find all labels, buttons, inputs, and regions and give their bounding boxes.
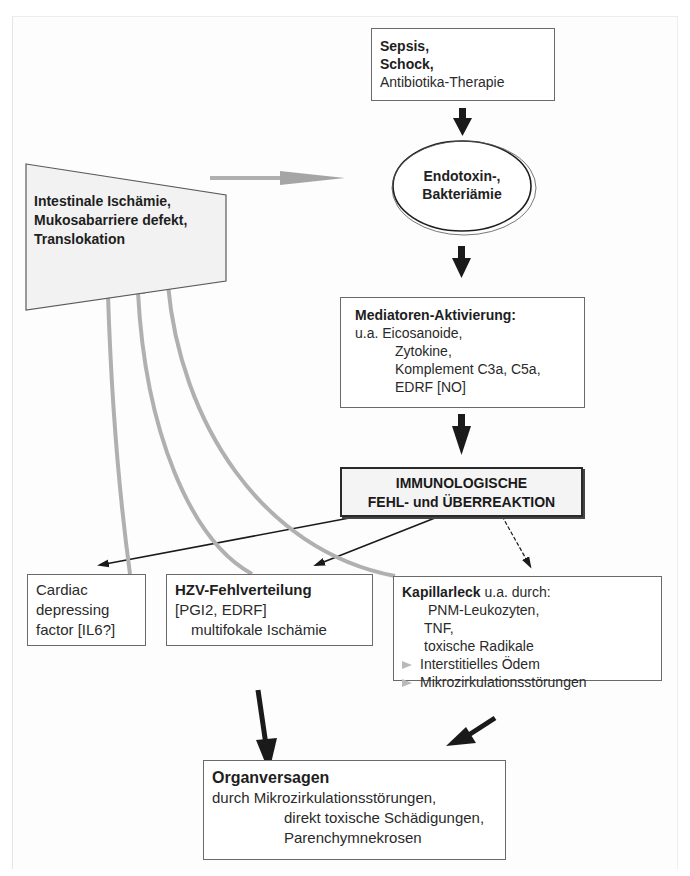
- kapillar-bullet-1-text: Interstitielles Ödem: [420, 656, 540, 672]
- intestinal-line-1: Intestinale Ischämie,: [34, 192, 234, 211]
- triangle-bullet-icon: [402, 679, 412, 687]
- cardiac-line-1: Cardiac: [36, 580, 145, 600]
- node-endotoxin: Endotoxin-, Bakteriämie: [402, 167, 522, 203]
- organ-line-3: Parenchymnekrosen: [212, 828, 505, 848]
- endotoxin-line-1: Endotoxin-,: [402, 167, 522, 185]
- kapillar-line-1: PNM-Leukozyten,: [402, 601, 661, 619]
- node-intestinal: Intestinale Ischämie, Mukosabarriere def…: [34, 192, 234, 249]
- arrow-immuno-to-kapillar: [502, 516, 530, 566]
- arrow-kapillar-to-organ: [446, 718, 495, 746]
- kapillar-line-3: toxische Radikale: [402, 637, 661, 655]
- sepsis-line-1: Sepsis,: [380, 37, 554, 55]
- arrow-endotoxin-to-mediatoren: [452, 246, 471, 278]
- intestinal-line-2: Mukosabarriere defekt,: [34, 211, 234, 230]
- endotoxin-line-2: Bakteriämie: [402, 185, 522, 203]
- kapillar-title-suffix: u.a. durch:: [481, 584, 551, 600]
- immuno-line-2: FEHL- und ÜBERREAKTION: [342, 493, 581, 512]
- node-hzv: HZV-Fehlverteilung [PGI2, EDRF] multifok…: [166, 574, 373, 646]
- arrow-intestinal-to-endotoxin: [210, 171, 345, 185]
- node-organ: Organversagen durch Mikrozirkulationsstö…: [203, 760, 506, 860]
- sepsis-line-2: Schock,: [380, 55, 554, 73]
- hzv-line-1: [PGI2, EDRF]: [175, 600, 372, 620]
- organ-line-2: direkt toxische Schädigungen,: [212, 808, 505, 828]
- intestinal-line-3: Translokation: [34, 230, 234, 249]
- cardiac-line-2: depressing: [36, 600, 145, 620]
- curve-cardiac-to-intestinal: [108, 295, 130, 574]
- organ-title: Organversagen: [212, 768, 505, 788]
- connector-layer: [0, 0, 690, 876]
- cardiac-line-3: factor [IL6?]: [36, 620, 145, 640]
- sepsis-line-3: Antibiotika-Therapie: [380, 73, 554, 91]
- arrow-sepsis-to-endotoxin: [453, 108, 472, 136]
- mediatoren-line-4: EDRF [NO]: [355, 378, 584, 396]
- hzv-line-2: multifokale Ischämie: [175, 620, 372, 640]
- arrow-mediatoren-to-immuno: [452, 414, 471, 455]
- mediatoren-title: Mediatoren-Aktivierung:: [355, 306, 584, 324]
- mediatoren-line-2: Zytokine,: [355, 342, 584, 360]
- kapillar-line-2: TNF,: [402, 619, 661, 637]
- node-immuno: IMMUNOLOGISCHE FEHL- und ÜBERREAKTION: [340, 467, 583, 517]
- kapillar-title: Kapillarleck: [402, 584, 481, 600]
- node-cardiac: Cardiac depressing factor [IL6?]: [27, 574, 146, 646]
- node-sepsis: Sepsis, Schock, Antibiotika-Therapie: [371, 28, 555, 101]
- kapillar-bullet-2-text: Mikrozirkulationsstörungen: [420, 674, 587, 690]
- curve-hzv-to-intestinal: [138, 292, 252, 574]
- organ-line-1: durch Mikrozirkulationsstörungen,: [212, 788, 505, 808]
- node-kapillar: Kapillarleck u.a. durch: PNM-Leukozyten,…: [393, 576, 662, 681]
- kapillar-bullet-1: Interstitielles Ödem: [402, 655, 661, 673]
- node-mediatoren: Mediatoren-Aktivierung: u.a. Eicosanoide…: [340, 297, 585, 408]
- triangle-bullet-icon: [402, 661, 412, 669]
- immuno-line-1: IMMUNOLOGISCHE: [342, 474, 581, 493]
- mediatoren-line-1: u.a. Eicosanoide,: [355, 324, 584, 342]
- hzv-title: HZV-Fehlverteilung: [175, 580, 372, 600]
- mediatoren-line-3: Komplement C3a, C5a,: [355, 360, 584, 378]
- kapillar-bullet-2: Mikrozirkulationsstörungen: [402, 673, 661, 691]
